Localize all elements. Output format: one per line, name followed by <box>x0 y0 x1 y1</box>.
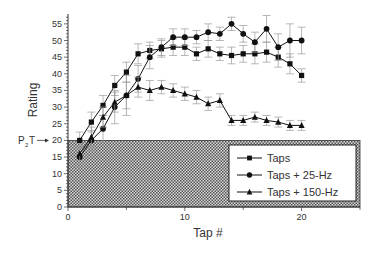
circle-marker <box>217 31 223 37</box>
square-marker <box>217 51 222 56</box>
circle-marker <box>147 54 153 60</box>
y-tick-label: 25 <box>52 119 62 129</box>
y-tick-label: 40 <box>52 69 62 79</box>
y-tick-label: 35 <box>52 85 62 95</box>
triangle-marker <box>217 97 223 103</box>
square-marker <box>299 73 304 78</box>
square-marker <box>264 50 269 55</box>
square-marker <box>287 61 292 66</box>
circle-marker <box>229 21 235 27</box>
x-tick-label: 20 <box>297 212 307 222</box>
circle-marker <box>252 39 258 45</box>
series-line <box>80 47 302 140</box>
circle-marker <box>205 29 211 35</box>
y-tick-label: 15 <box>52 152 62 162</box>
x-tick-label: 0 <box>65 212 70 222</box>
x-tick-label: 10 <box>180 212 190 222</box>
square-marker <box>124 70 129 75</box>
triangle-marker <box>158 84 164 90</box>
y-tick-label: 50 <box>52 36 62 46</box>
circle-marker <box>264 26 270 32</box>
circle-marker <box>159 44 165 50</box>
legend-label: Taps <box>267 152 291 164</box>
y-tick-label: 45 <box>52 52 62 62</box>
square-marker <box>229 53 234 58</box>
circle-marker <box>182 34 188 40</box>
circle-marker <box>299 38 305 44</box>
circle-marker <box>247 172 252 177</box>
line-chart: 051015202530354045505501020 TapsTaps + 2… <box>0 0 379 253</box>
threshold-label-text: P <box>18 135 25 146</box>
y-axis-label: Rating <box>26 83 40 118</box>
y-tick-label: 20 <box>52 135 62 145</box>
circle-marker <box>275 44 281 50</box>
legend-label: Taps + 150-Hz <box>267 186 338 198</box>
circle-marker <box>170 34 176 40</box>
circle-marker <box>287 38 293 44</box>
chart-svg: 051015202530354045505501020 TapsTaps + 2… <box>0 0 379 253</box>
series-square <box>76 39 306 149</box>
square-marker <box>241 51 246 56</box>
square-marker <box>112 83 117 88</box>
square-marker <box>89 119 94 124</box>
x-axis-label: Tap # <box>193 226 223 240</box>
y-tick-label: 10 <box>52 169 62 179</box>
triangle-marker <box>112 99 118 105</box>
triangle-marker <box>88 134 94 140</box>
square-marker <box>135 51 140 56</box>
legend-label: Taps + 25-Hz <box>267 169 332 181</box>
triangle-marker <box>135 84 141 90</box>
threshold-label-tail: T <box>29 135 35 146</box>
arrow-icon <box>45 138 49 142</box>
circle-marker <box>240 31 246 37</box>
y-tick-label: 0 <box>57 202 62 212</box>
circle-marker <box>194 34 200 40</box>
y-tick-label: 30 <box>52 102 62 112</box>
triangle-marker <box>252 114 258 120</box>
legend: TapsTaps + 25-HzTaps + 150-Hz <box>229 145 356 201</box>
square-marker <box>77 138 82 143</box>
y-tick-label: 5 <box>57 185 62 195</box>
square-marker <box>206 46 211 51</box>
square-marker <box>194 51 199 56</box>
threshold-label: P2T <box>18 135 49 148</box>
y-tick-label: 55 <box>52 19 62 29</box>
square-marker <box>247 156 252 161</box>
